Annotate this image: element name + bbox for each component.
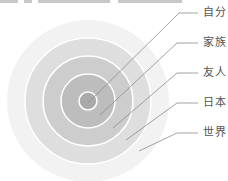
label-japan: 日本 bbox=[203, 97, 227, 109]
label-family: 家族 bbox=[203, 37, 227, 49]
concentric-circles-diagram bbox=[0, 0, 228, 181]
ring-self bbox=[79, 92, 97, 110]
label-friends: 友人 bbox=[203, 67, 227, 79]
label-self: 自分 bbox=[203, 7, 227, 19]
label-world: 世界 bbox=[203, 127, 227, 139]
